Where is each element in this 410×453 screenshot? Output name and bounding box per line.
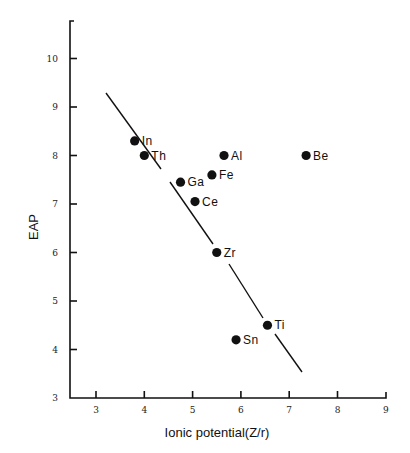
point-label: In (142, 134, 153, 148)
trend-line-segment (275, 334, 302, 372)
data-point-th: Th (140, 149, 167, 163)
data-point-zr: Zr (212, 246, 236, 260)
data-points: InThGaCeFeAlBeZrTiSn (130, 134, 329, 347)
data-point-ce: Ce (190, 195, 218, 209)
point-marker (190, 197, 199, 206)
y-axis-ticks: 345678910 (47, 54, 77, 404)
data-point-ga: Ga (176, 175, 205, 189)
x-tick-label: 4 (141, 405, 147, 415)
point-label: Ti (274, 318, 285, 332)
data-point-be: Be (302, 149, 329, 163)
x-axis-ticks: 3456789 (93, 391, 389, 415)
data-point-in: In (130, 134, 153, 148)
y-tick-label: 10 (47, 54, 59, 64)
trend-line-segment (170, 182, 213, 244)
point-marker (212, 248, 221, 257)
point-label: Ga (188, 175, 205, 189)
data-point-ti: Ti (263, 318, 285, 332)
y-axis-title: EAP (26, 214, 41, 240)
x-axis-title: Ionic potential(Z/r) (165, 425, 270, 440)
y-axis-line (70, 21, 386, 398)
y-tick-label: 7 (52, 199, 58, 209)
point-label: Al (231, 149, 243, 163)
trend-line-segment (229, 264, 263, 318)
y-tick-label: 3 (52, 393, 58, 403)
point-marker (130, 136, 139, 145)
point-marker (207, 170, 216, 179)
x-tick-label: 5 (190, 405, 196, 415)
trend-line (106, 93, 302, 372)
x-tick-label: 9 (383, 405, 389, 415)
y-tick-label: 8 (52, 151, 58, 161)
point-label: Zr (224, 246, 236, 260)
y-tick-label: 5 (52, 296, 58, 306)
x-tick-label: 8 (335, 405, 341, 415)
point-marker (302, 151, 311, 160)
point-label: Ce (202, 195, 218, 209)
axes (70, 21, 386, 398)
point-label: Sn (243, 333, 259, 347)
x-tick-label: 6 (238, 405, 244, 415)
point-marker (263, 321, 272, 330)
point-label: Th (151, 149, 166, 163)
point-marker (231, 335, 240, 344)
x-tick-label: 7 (286, 405, 292, 415)
y-tick-label: 4 (52, 345, 58, 355)
scatter-chart: 345678910 3456789 InThGaCeFeAlBeZrTiSn E… (0, 0, 410, 453)
y-tick-label: 6 (52, 248, 58, 258)
point-marker (176, 178, 185, 187)
point-label: Be (313, 149, 329, 163)
y-tick-label: 9 (52, 102, 58, 112)
point-label: Fe (219, 168, 234, 182)
data-point-fe: Fe (207, 168, 234, 182)
point-marker (140, 151, 149, 160)
data-point-sn: Sn (231, 333, 258, 347)
point-marker (219, 151, 228, 160)
data-point-al: Al (219, 149, 242, 163)
x-tick-label: 3 (93, 405, 99, 415)
